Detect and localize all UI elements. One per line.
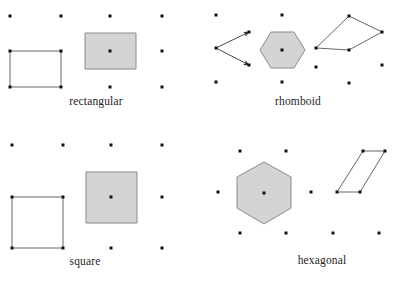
lattice-point bbox=[161, 15, 164, 18]
lattice-point bbox=[11, 196, 14, 199]
lattice-panel-rectangular: rectangular bbox=[9, 15, 164, 109]
lattice-point bbox=[348, 49, 351, 52]
lattice-point bbox=[332, 232, 335, 235]
lattice-point bbox=[248, 31, 251, 34]
panels-group: rectangularrhomboidsquarehexagonal bbox=[9, 14, 387, 269]
lattice-point bbox=[9, 50, 12, 53]
lattice-point bbox=[315, 47, 318, 50]
unit-cell-rectangular bbox=[10, 51, 61, 87]
lattice-point bbox=[348, 82, 351, 85]
lattice-point bbox=[381, 64, 384, 67]
unit-cell-rhomboid bbox=[316, 16, 382, 50]
lattice-point bbox=[62, 247, 65, 250]
lattice-point bbox=[215, 14, 218, 17]
lattice-point bbox=[60, 50, 63, 53]
lattice-point bbox=[109, 50, 112, 53]
lattice-label-square: square bbox=[70, 255, 101, 268]
lattice-point bbox=[215, 47, 218, 50]
lattice-point bbox=[110, 196, 113, 199]
lattice-point bbox=[161, 196, 164, 199]
lattice-point bbox=[161, 86, 164, 89]
lattice-vector-a1 bbox=[216, 32, 249, 48]
lattice-point bbox=[11, 144, 14, 147]
lattice-panel-hexagonal: hexagonal bbox=[217, 150, 387, 268]
lattice-label-hexagonal: hexagonal bbox=[298, 254, 347, 267]
lattice-point bbox=[110, 144, 113, 147]
lattice-point bbox=[60, 15, 63, 18]
lattice-label-rectangular: rectangular bbox=[69, 95, 122, 108]
lattice-canvas: rectangularrhomboidsquarehexagonal bbox=[0, 0, 397, 281]
lattice-point bbox=[281, 81, 284, 84]
lattice-point bbox=[381, 31, 384, 34]
lattice-panel-rhomboid: rhomboid bbox=[215, 14, 384, 108]
lattice-point bbox=[362, 150, 365, 153]
lattice-point bbox=[248, 64, 251, 67]
lattice-vector-a2 bbox=[216, 48, 249, 65]
lattice-point bbox=[315, 66, 318, 69]
lattice-label-rhomboid: rhomboid bbox=[275, 95, 321, 107]
lattice-point bbox=[110, 247, 113, 250]
lattice-point bbox=[285, 232, 288, 235]
lattice-point bbox=[9, 86, 12, 89]
lattice-point bbox=[62, 196, 65, 199]
lattice-point bbox=[239, 150, 242, 153]
lattice-point bbox=[310, 191, 313, 194]
lattice-point bbox=[384, 150, 387, 153]
lattice-point bbox=[161, 247, 164, 250]
lattice-point bbox=[336, 191, 339, 194]
lattice-point bbox=[109, 86, 112, 89]
lattice-point bbox=[215, 81, 218, 84]
lattice-point bbox=[285, 150, 288, 153]
bravais-lattice-figure: rectangularrhomboidsquarehexagonal bbox=[0, 0, 397, 281]
lattice-point bbox=[62, 144, 65, 147]
lattice-point bbox=[60, 86, 63, 89]
lattice-point bbox=[9, 15, 12, 18]
unit-cell-hexagonal bbox=[337, 151, 385, 192]
lattice-point bbox=[109, 15, 112, 18]
lattice-point bbox=[378, 232, 381, 235]
unit-cell-square bbox=[12, 197, 63, 248]
lattice-point bbox=[281, 49, 284, 52]
lattice-point bbox=[281, 14, 284, 17]
lattice-point bbox=[239, 232, 242, 235]
lattice-point bbox=[359, 191, 362, 194]
lattice-panel-square: square bbox=[11, 144, 164, 269]
lattice-point bbox=[161, 144, 164, 147]
lattice-point bbox=[348, 15, 351, 18]
lattice-point bbox=[161, 50, 164, 53]
lattice-point bbox=[11, 247, 14, 250]
lattice-point bbox=[263, 192, 266, 195]
lattice-point bbox=[217, 191, 220, 194]
